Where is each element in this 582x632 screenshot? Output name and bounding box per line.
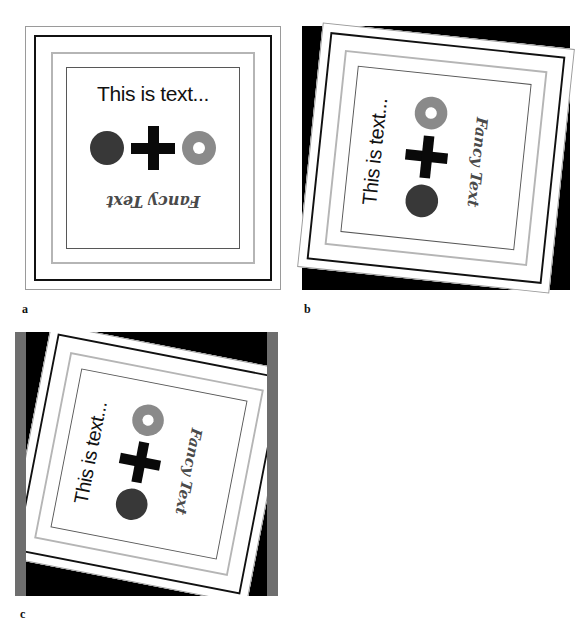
panel-label-a: a <box>22 303 28 315</box>
plus-cross-icon <box>131 126 175 170</box>
filled-disc-icon <box>113 486 150 523</box>
panel-d: This is text... Fancy Text d <box>291 316 582 632</box>
headline-text: This is text... <box>70 399 112 505</box>
fancy-text: Fancy Text <box>172 427 206 516</box>
panel-a: This is text... Fancy Text a <box>0 0 291 316</box>
card-content-c: This is text... Fancy Text <box>50 368 247 559</box>
glyph-row <box>109 401 172 524</box>
plus-cross-icon <box>403 134 449 180</box>
card-content-a: This is text... Fancy Text <box>66 67 240 249</box>
glyph-row <box>90 126 216 170</box>
glyph-row <box>399 95 454 220</box>
card-content-b: This is text... Fancy Text <box>340 66 531 250</box>
fancy-text: Fancy Text <box>106 192 200 211</box>
card-artwork-c: This is text... Fancy Text <box>6 324 292 605</box>
card-artwork-a: This is text... Fancy Text <box>25 26 281 290</box>
annulus-ring-icon <box>413 95 449 131</box>
panel-label-c: c <box>20 608 25 620</box>
panel-c-gray-bar-right <box>267 332 278 596</box>
panel-c-top-mask <box>0 316 291 332</box>
annulus-ring-icon <box>182 131 216 165</box>
filled-disc-icon <box>404 183 440 219</box>
filled-disc-icon <box>90 131 124 165</box>
headline-text: This is text... <box>358 97 392 206</box>
panel-b: This is text... Fancy Text b <box>291 0 582 316</box>
plus-cross-icon <box>116 438 164 486</box>
fancy-text: Fancy Text <box>464 116 492 208</box>
headline-text: This is text... <box>97 82 209 106</box>
card-artwork-b: This is text... Fancy Text <box>297 23 575 294</box>
panel-c-gray-bar-left <box>15 332 26 596</box>
panel-c-left-mask <box>0 316 15 632</box>
annulus-ring-icon <box>129 402 166 439</box>
panel-c-bottom-mask <box>0 596 291 632</box>
panel-c-right-mask <box>278 316 291 632</box>
panel-label-b: b <box>304 303 311 315</box>
figure-grid: This is text... Fancy Text a This is tex… <box>0 0 582 632</box>
